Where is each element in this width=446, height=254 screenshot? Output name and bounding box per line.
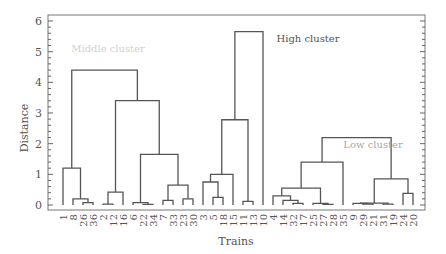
dendrogram-link (213, 197, 223, 205)
leaf-label: 20 (408, 214, 419, 227)
y-axis-label: Distance (18, 104, 31, 153)
dendrogram-link (143, 204, 153, 205)
dendrogram-link (235, 32, 263, 205)
y-tick-label: 6 (35, 15, 42, 28)
dendrogram-link (211, 174, 234, 205)
dendrogram-links (63, 32, 413, 205)
dendrogram-link (293, 203, 303, 205)
dendrogram-link (222, 120, 248, 202)
dendrogram-link (243, 201, 253, 205)
dendrogram-chart: 0123456 18263621216622347332330351815111… (0, 0, 446, 254)
dendrogram-link (83, 203, 93, 205)
dendrogram-link (403, 193, 413, 205)
y-tick-label: 2 (35, 138, 42, 151)
dendrogram-link (163, 200, 173, 205)
cluster-annotation: High cluster (276, 33, 339, 44)
y-tick-label: 4 (35, 76, 42, 89)
dendrogram-link (323, 204, 333, 205)
cluster-annotations: Middle clusterHigh clusterLow cluster (71, 33, 403, 150)
dendrogram-link (383, 204, 393, 205)
dendrogram-link (141, 154, 179, 202)
cluster-annotation: Low cluster (343, 139, 403, 150)
dendrogram-link (168, 185, 188, 200)
dendrogram-link (103, 204, 113, 205)
y-tick-label: 0 (35, 199, 42, 212)
dendrogram-link (283, 200, 298, 205)
y-tick-label: 5 (35, 46, 42, 59)
dendrogram-link (72, 70, 138, 168)
dendrogram-link (116, 101, 160, 192)
dendrogram-link (183, 199, 193, 205)
dendrogram-link (363, 204, 373, 205)
x-axis-label: Trains (218, 235, 254, 248)
chart-canvas: 0123456 18263621216622347332330351815111… (0, 0, 446, 254)
dendrogram-link (108, 192, 123, 205)
y-tick-label: 3 (35, 107, 42, 120)
dendrogram-link (301, 162, 343, 205)
x-axis-leaf-labels: 1826362121662234733233035181511131041432… (58, 214, 419, 227)
y-tick-label: 1 (35, 168, 42, 181)
cluster-annotation: Middle cluster (71, 43, 145, 54)
dendrogram-link (203, 182, 218, 205)
